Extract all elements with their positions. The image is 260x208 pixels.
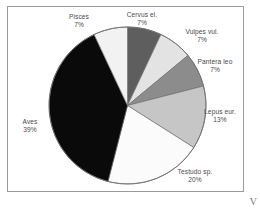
slice-label-vulpes-vul: Vulpes vul. 7% (176, 28, 228, 43)
slice-label-pisces-percent: 7% (57, 21, 101, 29)
slice-label-cervus-el: Cervus el. 7% (117, 11, 167, 26)
slice-label-pisces-name: Pisces (57, 13, 101, 21)
slice-label-aves-percent: 39% (12, 126, 48, 134)
pie-slice-group (49, 27, 206, 184)
pie-chart-figure: Pisces 7% Cervus el. 7% Vulpes vul. 7% P… (0, 0, 260, 208)
slice-label-lepus-eur-name: Lepus eur. (196, 108, 244, 116)
slice-label-cervus-el-name: Cervus el. (117, 11, 167, 19)
slice-label-vulpes-vul-name: Vulpes vul. (176, 28, 228, 36)
slice-label-aves-name: Aves (12, 118, 48, 126)
slice-label-pantera-leo: Pantera leo 7% (186, 58, 244, 73)
slice-label-pantera-leo-percent: 7% (186, 66, 244, 74)
slice-label-aves: Aves 39% (12, 118, 48, 133)
slice-label-vulpes-vul-percent: 7% (176, 36, 228, 44)
slice-label-cervus-el-percent: 7% (117, 19, 167, 27)
slice-label-lepus-eur: Lepus eur. 13% (196, 108, 244, 123)
slice-label-testudo-sp-name: Testudo sp. (168, 168, 222, 176)
slice-label-pisces: Pisces 7% (57, 13, 101, 28)
slice-label-pantera-leo-name: Pantera leo (186, 58, 244, 66)
slice-label-testudo-sp: Testudo sp. 20% (168, 168, 222, 183)
corner-glyph: V (250, 196, 257, 207)
slice-label-testudo-sp-percent: 20% (168, 176, 222, 184)
slice-label-lepus-eur-percent: 13% (196, 116, 244, 124)
